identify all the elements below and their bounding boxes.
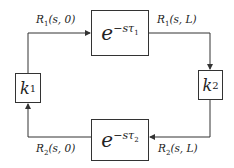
gain-block-k1: k1 <box>15 73 41 103</box>
r1-0-args: (s, 0) <box>48 13 75 25</box>
r1-L-name: R <box>157 13 165 25</box>
gain-block-k2: k2 <box>198 70 223 100</box>
k2-sub: 2 <box>212 80 218 91</box>
delay-block-top: e−sτ1 <box>91 10 149 56</box>
r2-L-args: (s, L) <box>170 142 197 154</box>
delay-bottom-exponent-sub: 2 <box>134 137 138 145</box>
delay-bottom-exponent: −sτ <box>113 129 134 142</box>
k2-symbol: k <box>202 76 212 95</box>
r1-0-name: R <box>36 13 44 25</box>
signal-label-r2-0: R2(s, 0) <box>36 143 75 157</box>
wire-delay2-to-k1 <box>28 104 91 137</box>
k1-symbol: k <box>20 79 30 98</box>
r2-L-name: R <box>158 142 166 154</box>
wire-delay1-to-k2 <box>149 33 210 69</box>
r2-0-name: R <box>36 142 44 154</box>
signal-label-r1-L: R1(s, L) <box>157 14 197 28</box>
delay-top-exponent: −sτ <box>113 22 134 35</box>
k1-sub: 1 <box>30 83 36 94</box>
r1-L-args: (s, L) <box>169 13 196 25</box>
delay-bottom-base: e <box>101 128 113 152</box>
wire-k2-to-delay2 <box>150 100 210 137</box>
r2-0-args: (s, 0) <box>48 142 75 154</box>
signal-label-r1-0: R1(s, 0) <box>36 14 75 28</box>
delay-block-bottom: e−sτ2 <box>91 119 149 161</box>
delay-top-base: e <box>101 21 113 45</box>
delay-top-exponent-sub: 1 <box>134 30 138 38</box>
wire-k1-to-delay1 <box>28 33 90 73</box>
signal-label-r2-L: R2(s, L) <box>158 143 198 157</box>
